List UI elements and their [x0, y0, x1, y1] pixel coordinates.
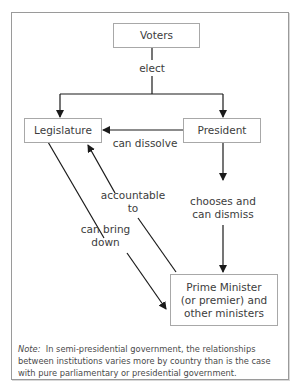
note-text: In semi-presidential government, the rel… [18, 344, 271, 378]
edge-label-bring-down-line1: can bring [78, 223, 133, 236]
edge-label-can-dissolve: can dissolve [110, 137, 180, 150]
edge-label-chooses-line2: can dismiss [183, 208, 263, 221]
edge-label-accountable-line1: accountable [98, 189, 168, 202]
edge-label-chooses-line1: chooses and [183, 195, 263, 208]
node-prime-minister: Prime Minister (or premier) and other mi… [170, 274, 278, 326]
note-label: Note: [18, 344, 40, 354]
edge-label-accountable-to: accountable to [98, 189, 168, 215]
node-voters: Voters [113, 23, 200, 48]
edge-label-chooses-dismiss: chooses and can dismiss [183, 195, 263, 221]
node-legislature-label: Legislature [34, 124, 92, 137]
edge-label-elect: elect [132, 62, 172, 75]
edge-label-can-bring-down: can bring down [78, 223, 133, 249]
node-president-label: President [198, 124, 247, 137]
node-pm-line1: Prime Minister [186, 281, 261, 294]
edge-label-accountable-line2: to [98, 202, 168, 215]
diagram-note: Note: In semi-presidential government, t… [18, 343, 286, 379]
edge-label-bring-down-line2: down [78, 236, 133, 249]
node-pm-line3: other ministers [184, 307, 264, 320]
node-pm-line2: (or premier) and [181, 294, 268, 307]
node-legislature: Legislature [24, 118, 102, 143]
node-president: President [183, 118, 261, 143]
node-voters-label: Voters [140, 29, 173, 42]
